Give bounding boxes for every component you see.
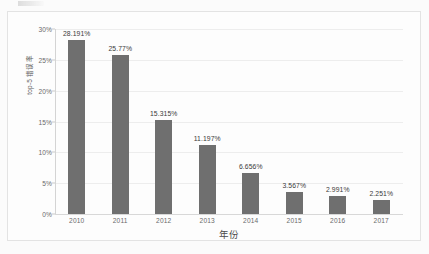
bar-value-label-2012: 15.315% bbox=[150, 110, 178, 117]
y-tick-label: 0% bbox=[28, 211, 52, 218]
bar-value-label-2016: 2.991% bbox=[326, 186, 350, 193]
bar-2012 bbox=[155, 120, 172, 214]
y-tick-label: 15% bbox=[28, 118, 52, 125]
bar-2010 bbox=[68, 40, 85, 214]
y-tick-label: 20% bbox=[28, 87, 52, 94]
bar-value-label-2014: 6.656% bbox=[239, 163, 263, 170]
bar-slot bbox=[112, 29, 129, 214]
plot-area: 28.191%25.77%15.315%11.197%6.656%3.567%2… bbox=[55, 29, 403, 214]
bar-slot bbox=[155, 29, 172, 214]
bar-series: 28.191%25.77%15.315%11.197%6.656%3.567%2… bbox=[55, 29, 403, 214]
x-tick-label-2015: 2015 bbox=[287, 217, 302, 224]
bar-value-label-2011: 25.77% bbox=[108, 45, 132, 52]
x-tick-label-2014: 2014 bbox=[243, 217, 258, 224]
bar-value-label-2015: 3.567% bbox=[282, 182, 306, 189]
x-tick-label-2011: 2011 bbox=[113, 217, 128, 224]
bar-2014 bbox=[242, 173, 259, 214]
bar-2011 bbox=[112, 55, 129, 214]
bar-2013 bbox=[199, 145, 216, 214]
bar-2016 bbox=[329, 196, 346, 214]
bar-slot bbox=[373, 29, 390, 214]
scan-artifact bbox=[18, 1, 44, 6]
x-tick-label-2017: 2017 bbox=[374, 217, 389, 224]
gridline-0% bbox=[55, 214, 403, 215]
bar-2017 bbox=[373, 200, 390, 214]
y-tick-label: 30% bbox=[28, 26, 52, 33]
bar-value-label-2010: 28.191% bbox=[63, 30, 91, 37]
y-tick-label: 5% bbox=[28, 180, 52, 187]
bar-slot bbox=[242, 29, 259, 214]
y-tick-label: 25% bbox=[28, 56, 52, 63]
y-tick-label: 10% bbox=[28, 149, 52, 156]
bar-slot bbox=[199, 29, 216, 214]
bar-value-label-2017: 2.251% bbox=[369, 190, 393, 197]
x-tick-label-2016: 2016 bbox=[330, 217, 345, 224]
plot-wrapper: top-5 错误率 0%5%10%15%20%25%30% 28.191%25.… bbox=[8, 12, 420, 240]
x-tick-label-2012: 2012 bbox=[156, 217, 171, 224]
bar-value-label-2013: 11.197% bbox=[194, 135, 221, 142]
chart-container: top-5 错误率 0%5%10%15%20%25%30% 28.191%25.… bbox=[7, 11, 421, 241]
x-axis-title: 年份 bbox=[55, 227, 403, 241]
bar-2015 bbox=[286, 192, 303, 214]
bar-slot bbox=[68, 29, 85, 214]
y-axis-tick-labels: 0%5%10%15%20%25%30% bbox=[26, 12, 52, 240]
x-tick-label-2013: 2013 bbox=[200, 217, 215, 224]
x-tick-label-2010: 2010 bbox=[69, 217, 84, 224]
